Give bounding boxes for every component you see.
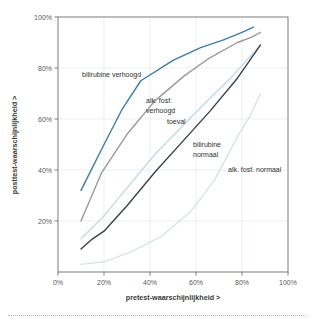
y-tick-label: 80% bbox=[38, 65, 52, 72]
footer-dotted-divider bbox=[8, 315, 306, 318]
x-tick-label: 100% bbox=[279, 279, 297, 286]
y-axis-tick-labels: 20%40%60%80%100% bbox=[34, 14, 52, 225]
data-series-group bbox=[81, 27, 260, 264]
chart-figure: 0%20%40%60%80%100% 20%40%60%80%100% bili… bbox=[0, 0, 314, 324]
x-tick-label: 40% bbox=[143, 279, 157, 286]
x-axis-tick-labels: 0%20%40%60%80%100% bbox=[53, 279, 297, 286]
x-tick-label: 80% bbox=[235, 279, 249, 286]
x-tick-label: 0% bbox=[53, 279, 63, 286]
y-axis-title: posttest-waarschijnlijkheid > bbox=[10, 96, 19, 194]
y-tick-label: 100% bbox=[34, 14, 52, 21]
series-line-alk-fosf-verhoogd bbox=[81, 32, 260, 221]
plot-area: 0%20%40%60%80%100% 20%40%60%80%100% bili… bbox=[0, 0, 314, 324]
y-tick-label: 20% bbox=[38, 218, 52, 225]
annotation-alk-fosf-normaal: alk. fosf. normaal bbox=[228, 166, 282, 173]
x-tick-label: 20% bbox=[97, 279, 111, 286]
x-tick-label: 60% bbox=[189, 279, 203, 286]
y-tick-label: 60% bbox=[38, 116, 52, 123]
annotation-bilirubine-verhoogd: bilirubine verhoogd bbox=[82, 71, 141, 79]
annotation-toeval: toeval bbox=[167, 118, 186, 125]
x-axis-title: pretest-waarschijnlijkheid > bbox=[126, 293, 220, 302]
annotation-alk-fosf-verhoogd: alk. fosf.verhoogd bbox=[146, 97, 175, 115]
chart-svg: 0%20%40%60%80%100% 20%40%60%80%100% bili… bbox=[0, 0, 314, 324]
annotation-bilirubine-normaal: bilirubinenormaal bbox=[193, 141, 221, 158]
y-tick-label: 40% bbox=[38, 167, 52, 174]
